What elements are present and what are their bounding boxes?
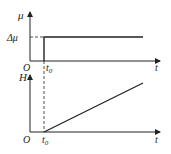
t0-top: t0	[46, 62, 53, 75]
mu-graph: μ Δμ O t t0	[6, 9, 160, 75]
mu-label: μ	[17, 9, 24, 21]
t-label-bottom: t	[155, 134, 158, 145]
t-label-top: t	[155, 62, 158, 73]
h-ramp	[44, 83, 143, 132]
h-label: H	[18, 71, 28, 83]
delta-mu-label: Δμ	[6, 32, 18, 43]
h-graph: H O t t0	[18, 71, 160, 147]
diagram: μ Δμ O t t0 H O t t0	[0, 0, 171, 154]
t0-bottom: t0	[42, 134, 49, 147]
origin-bottom: O	[23, 134, 30, 145]
step-curve	[44, 37, 143, 61]
